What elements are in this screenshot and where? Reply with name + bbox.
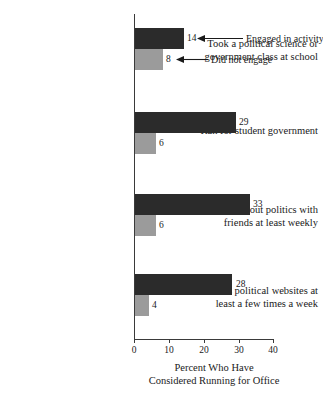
x-tick-label-30: 30 (227, 345, 251, 356)
x-tick-label-20: 20 (192, 345, 216, 356)
x-axis-title-line: Percent Who Have (134, 361, 294, 374)
bar-not-engaged-political-websites (135, 295, 149, 316)
bar-value-not-engaged-political-websites: 4 (152, 300, 157, 311)
x-tick-30 (239, 339, 240, 343)
x-tick-label-40: 40 (261, 345, 285, 356)
arrow-not-engaged-icon (176, 55, 208, 64)
bar-value-engaged-political-websites: 28 (236, 279, 246, 290)
bar-not-engaged-talks-politics (135, 215, 156, 236)
bar-value-engaged-talks-politics: 33 (253, 199, 263, 210)
bar-value-not-engaged-talks-politics: 6 (159, 220, 164, 231)
category-label-line: least a few times a week (195, 297, 318, 310)
x-tick-10 (169, 339, 170, 343)
bar-engaged-political-websites (135, 274, 232, 295)
x-tick-label-0: 0 (122, 345, 146, 356)
x-tick-label-10: 10 (157, 345, 181, 356)
category-label-line: friends at least weekly (195, 216, 318, 229)
bar-value-not-engaged-student-government: 6 (159, 138, 164, 149)
arrow-engaged-icon (197, 34, 243, 43)
bar-engaged-political-science-class (135, 28, 184, 49)
annotation-not-engaged-label: Did not engage (211, 54, 272, 66)
bar-value-not-engaged-political-science-class: 8 (166, 54, 171, 65)
bar-value-engaged-political-science-class: 14 (187, 33, 197, 44)
bar-chart: 0 10 20 30 40 Took a political science o… (0, 0, 323, 398)
bar-not-engaged-student-government (135, 133, 156, 154)
x-tick-20 (204, 339, 205, 343)
x-axis-title-line: Considered Running for Office (134, 374, 294, 387)
annotation-engaged-label: Engaged in activity (246, 33, 323, 45)
bar-value-engaged-student-government: 29 (239, 117, 249, 128)
bar-engaged-student-government (135, 112, 236, 133)
x-tick-40 (273, 339, 274, 343)
bar-engaged-talks-politics (135, 194, 250, 215)
x-tick-0 (134, 339, 135, 343)
bar-not-engaged-political-science-class (135, 49, 163, 70)
x-axis-title: Percent Who Have Considered Running for … (134, 361, 294, 387)
